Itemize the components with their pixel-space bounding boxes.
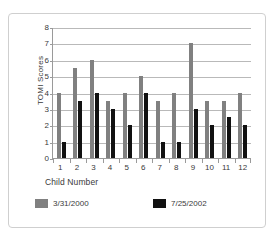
y-tick-label: 5 — [37, 73, 49, 81]
bar — [139, 76, 143, 158]
y-tick-label: 3 — [37, 106, 49, 114]
chart-legend: 3/31/2000 7/25/2002 — [35, 199, 245, 208]
chart-frame: TOMI Scores 012345678 123456789101112 Ch… — [8, 13, 266, 228]
plot-area — [52, 28, 251, 159]
x-tick-label: 2 — [69, 164, 86, 172]
bar — [57, 93, 61, 159]
bar — [172, 93, 176, 159]
y-axis-tick-labels: 012345678 — [37, 28, 49, 159]
y-tick-label: 4 — [37, 90, 49, 98]
bar — [210, 125, 214, 158]
y-tick-label: 7 — [37, 40, 49, 48]
bar — [238, 93, 242, 159]
x-tick-label: 5 — [118, 164, 135, 172]
x-tick-label: 1 — [52, 164, 69, 172]
bar — [73, 68, 77, 158]
legend-label-series-1: 3/31/2000 — [53, 199, 89, 208]
y-tick-label: 0 — [37, 155, 49, 163]
bar-group — [70, 28, 87, 158]
legend-item-series-1: 3/31/2000 — [35, 199, 153, 208]
x-axis-title: Child Number — [45, 177, 98, 187]
x-tick-label: 6 — [135, 164, 152, 172]
bar-group — [136, 28, 153, 158]
x-tick-label: 3 — [85, 164, 102, 172]
bar-group — [86, 28, 103, 158]
bar — [189, 43, 193, 158]
x-tick-label: 11 — [218, 164, 235, 172]
x-tick-label: 4 — [102, 164, 119, 172]
bar — [161, 142, 165, 158]
x-tick-label: 10 — [201, 164, 218, 172]
bar — [111, 109, 115, 158]
bar — [222, 101, 226, 158]
bar — [95, 93, 99, 159]
y-tick-label: 2 — [37, 122, 49, 130]
bar-group — [169, 28, 186, 158]
y-tick-label: 8 — [37, 24, 49, 32]
legend-item-series-2: 7/25/2002 — [153, 199, 207, 208]
bar — [123, 93, 127, 159]
bar — [90, 60, 94, 158]
bar — [62, 142, 66, 158]
y-tick-label: 6 — [37, 57, 49, 65]
plot-wrapper: 012345678 — [37, 28, 251, 159]
bar-group — [53, 28, 70, 158]
bar-group — [152, 28, 169, 158]
bar — [227, 117, 231, 158]
bar — [144, 93, 148, 159]
legend-label-series-2: 7/25/2002 — [171, 199, 207, 208]
bar — [194, 109, 198, 158]
y-tick-label: 1 — [37, 139, 49, 147]
bar-group — [185, 28, 202, 158]
x-tick-label: 8 — [168, 164, 185, 172]
bar — [128, 125, 132, 158]
bar — [177, 142, 181, 158]
bar — [205, 101, 209, 158]
bar-group — [119, 28, 136, 158]
x-tick-label: 7 — [151, 164, 168, 172]
bar — [78, 101, 82, 158]
bar-group — [235, 28, 252, 158]
legend-swatch-icon-series-2 — [153, 199, 166, 208]
bar-group — [103, 28, 120, 158]
bar — [156, 101, 160, 158]
x-axis-tick-labels: 123456789101112 — [52, 164, 251, 172]
bar-group — [202, 28, 219, 158]
bar — [106, 101, 110, 158]
legend-swatch-icon-series-1 — [35, 199, 48, 208]
bar-groups — [53, 28, 251, 158]
x-tick-label: 9 — [185, 164, 202, 172]
bar — [243, 125, 247, 158]
x-tick-label: 12 — [234, 164, 251, 172]
bar-group — [218, 28, 235, 158]
